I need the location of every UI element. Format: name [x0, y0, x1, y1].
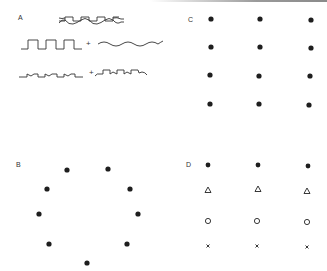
- dot: [105, 166, 110, 171]
- filled-dot-marker: [306, 164, 311, 169]
- filled-dot-marker: [206, 163, 211, 168]
- notched-square-wave: [19, 74, 83, 77]
- panel-d: [205, 163, 310, 249]
- stepped-wave: [95, 70, 147, 76]
- dot: [306, 102, 311, 107]
- filled-dot-marker: [256, 163, 261, 168]
- dot: [64, 167, 69, 172]
- x-cross-marker: [207, 245, 210, 248]
- square-wave: [21, 40, 82, 49]
- dot: [257, 44, 262, 49]
- dot: [44, 186, 49, 191]
- dot: [46, 241, 51, 246]
- composite-waveform: [59, 17, 124, 24]
- dot: [307, 73, 312, 78]
- sine-wave: [98, 41, 163, 46]
- dot: [36, 211, 41, 216]
- open-triangle-marker: [304, 188, 310, 194]
- dot: [84, 260, 89, 265]
- figure-canvas: + +: [0, 0, 327, 271]
- dot: [208, 44, 213, 49]
- dot: [308, 17, 313, 22]
- open-circle-marker: [205, 218, 210, 223]
- dot: [207, 72, 212, 77]
- panel-c: [207, 16, 313, 107]
- dot: [208, 16, 213, 21]
- open-triangle-marker: [255, 186, 261, 192]
- open-circle-marker: [254, 218, 259, 223]
- plus-sign-row-2: +: [86, 39, 91, 48]
- dot: [127, 186, 132, 191]
- dot: [256, 101, 261, 106]
- x-cross-marker: [306, 246, 309, 249]
- open-triangle-marker: [205, 187, 211, 193]
- open-circle-marker: [304, 219, 309, 224]
- dot: [124, 241, 129, 246]
- dot: [257, 16, 262, 21]
- x-cross-marker: [256, 245, 259, 248]
- dot: [256, 73, 261, 78]
- panel-b: [36, 166, 140, 265]
- dot: [135, 211, 140, 216]
- plus-sign-row-3: +: [89, 68, 94, 77]
- dot: [308, 45, 313, 50]
- dot: [207, 101, 212, 106]
